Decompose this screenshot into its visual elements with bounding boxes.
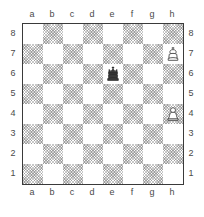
chess-diagram: a b c d e f g h 8 7 6 5 4 3 2 1 8 7 6 5 … [0,0,204,217]
square-a6[interactable] [23,64,43,84]
rank-label-8-right: 8 [184,23,198,43]
square-b4[interactable] [43,104,63,124]
square-f3[interactable] [123,124,143,144]
square-e1[interactable] [103,164,123,184]
file-label-g-bottom: g [142,185,162,199]
square-a3[interactable] [23,124,43,144]
white-king-icon[interactable] [163,44,183,64]
file-labels-top: a b c d e f g h [22,7,182,21]
square-e8[interactable] [103,24,123,44]
square-d1[interactable] [83,164,103,184]
rank-label-5-right: 5 [184,83,198,103]
file-label-a-top: a [22,7,42,21]
square-g2[interactable] [143,144,163,164]
file-label-d-top: d [82,7,102,21]
file-label-h-top: h [162,7,182,21]
rank-label-1-right: 1 [184,163,198,183]
square-c8[interactable] [63,24,83,44]
file-label-a-bottom: a [22,185,42,199]
square-e7[interactable] [103,44,123,64]
black-king-icon[interactable] [103,64,123,84]
square-b7[interactable] [43,44,63,64]
square-h7[interactable] [163,44,183,64]
chess-board[interactable] [22,23,184,185]
rank-label-4-left: 4 [6,103,20,123]
file-label-e-bottom: e [102,185,122,199]
square-e3[interactable] [103,124,123,144]
square-g7[interactable] [143,44,163,64]
square-f6[interactable] [123,64,143,84]
square-f4[interactable] [123,104,143,124]
square-f1[interactable] [123,164,143,184]
square-d6[interactable] [83,64,103,84]
square-g5[interactable] [143,84,163,104]
square-d5[interactable] [83,84,103,104]
square-h5[interactable] [163,84,183,104]
square-a5[interactable] [23,84,43,104]
square-b8[interactable] [43,24,63,44]
square-f7[interactable] [123,44,143,64]
square-g3[interactable] [143,124,163,144]
rank-label-5-left: 5 [6,83,20,103]
square-g4[interactable] [143,104,163,124]
square-g6[interactable] [143,64,163,84]
square-b5[interactable] [43,84,63,104]
square-f8[interactable] [123,24,143,44]
file-label-f-bottom: f [122,185,142,199]
file-label-c-top: c [62,7,82,21]
square-h3[interactable] [163,124,183,144]
square-h8[interactable] [163,24,183,44]
square-b6[interactable] [43,64,63,84]
square-e4[interactable] [103,104,123,124]
square-b2[interactable] [43,144,63,164]
square-c4[interactable] [63,104,83,124]
square-c2[interactable] [63,144,83,164]
square-f5[interactable] [123,84,143,104]
square-g1[interactable] [143,164,163,184]
rank-label-2-right: 2 [184,143,198,163]
square-a8[interactable] [23,24,43,44]
rank-label-7-left: 7 [6,43,20,63]
square-h1[interactable] [163,164,183,184]
file-label-h-bottom: h [162,185,182,199]
rank-label-1-left: 1 [6,163,20,183]
square-e6[interactable] [103,64,123,84]
square-d4[interactable] [83,104,103,124]
rank-label-8-left: 8 [6,23,20,43]
file-label-f-top: f [122,7,142,21]
file-label-b-bottom: b [42,185,62,199]
rank-label-3-left: 3 [6,123,20,143]
square-f2[interactable] [123,144,143,164]
square-h6[interactable] [163,64,183,84]
square-a7[interactable] [23,44,43,64]
square-g8[interactable] [143,24,163,44]
square-a2[interactable] [23,144,43,164]
square-c1[interactable] [63,164,83,184]
rank-labels-right: 8 7 6 5 4 3 2 1 [184,23,198,183]
square-a4[interactable] [23,104,43,124]
rank-label-2-left: 2 [6,143,20,163]
square-d2[interactable] [83,144,103,164]
square-h2[interactable] [163,144,183,164]
rank-label-7-right: 7 [184,43,198,63]
square-d3[interactable] [83,124,103,144]
rank-label-4-right: 4 [184,103,198,123]
square-e2[interactable] [103,144,123,164]
rank-label-6-right: 6 [184,63,198,83]
square-b1[interactable] [43,164,63,184]
rank-label-3-right: 3 [184,123,198,143]
rank-labels-left: 8 7 6 5 4 3 2 1 [6,23,20,183]
file-label-d-bottom: d [82,185,102,199]
square-c7[interactable] [63,44,83,64]
square-c5[interactable] [63,84,83,104]
square-h4[interactable] [163,104,183,124]
square-c3[interactable] [63,124,83,144]
white-pawn-icon[interactable] [163,104,183,124]
square-d7[interactable] [83,44,103,64]
square-a1[interactable] [23,164,43,184]
square-b3[interactable] [43,124,63,144]
square-c6[interactable] [63,64,83,84]
square-e5[interactable] [103,84,123,104]
square-d8[interactable] [83,24,103,44]
rank-label-6-left: 6 [6,63,20,83]
